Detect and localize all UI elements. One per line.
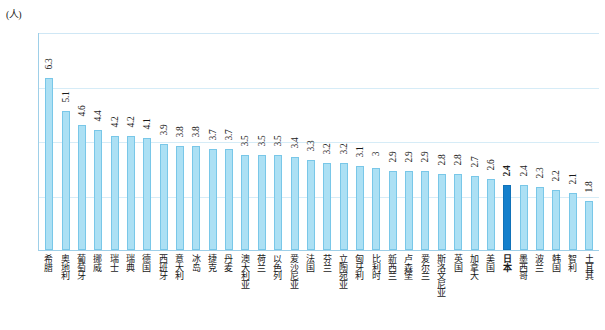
bar[interactable] — [94, 130, 102, 250]
bar-slot[interactable]: 3.5 — [254, 33, 270, 250]
bar-slot[interactable]: 2.2 — [548, 33, 564, 250]
category-label: 美国 — [486, 254, 495, 271]
bar-value-label: 2.8 — [453, 154, 463, 165]
bar[interactable] — [45, 78, 53, 250]
bar-slot[interactable]: 3.4 — [286, 33, 302, 250]
bar-slot[interactable]: 1.8 — [581, 33, 597, 250]
bar-slot[interactable]: 2.9 — [417, 33, 433, 250]
bar-slot[interactable]: 3.7 — [221, 33, 237, 250]
bar-slot[interactable]: 4.2 — [106, 33, 122, 250]
bar-slot[interactable]: 2.9 — [401, 33, 417, 250]
bar[interactable] — [291, 157, 299, 250]
bar-slot[interactable]: 2.6 — [483, 33, 499, 250]
bar-slot[interactable]: 2.3 — [532, 33, 548, 250]
category-label: 芬兰 — [322, 254, 331, 271]
bar-slot[interactable]: 3.8 — [172, 33, 188, 250]
bar-highlighted[interactable] — [503, 185, 511, 250]
bar-slot[interactable]: 2.7 — [466, 33, 482, 250]
bar[interactable] — [389, 171, 397, 250]
bar-value-label: 2.2 — [551, 171, 561, 182]
category-label: 德国 — [142, 254, 151, 271]
bar[interactable] — [421, 171, 429, 250]
bar-value-label: 2.7 — [470, 157, 480, 168]
category-label: 爱沙尼亚 — [289, 254, 298, 288]
bar[interactable] — [536, 187, 544, 250]
bar-slot[interactable]: 2.4 — [499, 33, 515, 250]
bar-slot[interactable]: 3.2 — [335, 33, 351, 250]
bar[interactable] — [78, 125, 86, 250]
category-label: 英国 — [453, 254, 462, 271]
bar[interactable] — [176, 146, 184, 250]
bar[interactable] — [209, 149, 217, 250]
bar-value-label: 3.5 — [273, 135, 283, 146]
bar-slot[interactable]: 3.8 — [188, 33, 204, 250]
bar[interactable] — [225, 149, 233, 250]
bar[interactable] — [487, 179, 495, 250]
category-slot: 波兰 — [531, 252, 547, 328]
bar[interactable] — [585, 201, 593, 250]
bar-slot[interactable]: 3.5 — [270, 33, 286, 250]
bar-slot[interactable]: 3 — [368, 33, 384, 250]
bar-slot[interactable]: 2.8 — [450, 33, 466, 250]
category-slot: 英国 — [449, 252, 465, 328]
bar-slot[interactable]: 5.1 — [57, 33, 73, 250]
bar[interactable] — [454, 174, 462, 250]
bar-value-label: 3.5 — [257, 135, 267, 146]
bar-slot[interactable]: 4.4 — [90, 33, 106, 250]
category-label: 波兰 — [535, 254, 544, 271]
bar-slot[interactable]: 2.4 — [515, 33, 531, 250]
bar[interactable] — [471, 176, 479, 250]
bar-value-label: 2.4 — [502, 165, 512, 176]
bar[interactable] — [438, 174, 446, 250]
bar[interactable] — [552, 190, 560, 250]
bar-value-label: 3 — [371, 152, 381, 156]
category-slot: 土耳其 — [580, 252, 596, 328]
category-label: 法国 — [306, 254, 315, 271]
bar[interactable] — [274, 155, 282, 250]
bar[interactable] — [111, 136, 119, 250]
bar-slot[interactable]: 2.8 — [434, 33, 450, 250]
bar[interactable] — [160, 144, 168, 250]
bar[interactable] — [143, 138, 151, 250]
bar-slot[interactable]: 3.3 — [303, 33, 319, 250]
bar[interactable] — [127, 136, 135, 250]
bar-slot[interactable]: 4.2 — [123, 33, 139, 250]
category-slot: 新西兰 — [384, 252, 400, 328]
category-label: 日本 — [502, 254, 511, 271]
bar[interactable] — [372, 168, 380, 250]
bar-value-label: 2.9 — [404, 151, 414, 162]
bar-value-label: 4.1 — [142, 119, 152, 130]
bar-slot[interactable]: 3.9 — [156, 33, 172, 250]
bar-slot[interactable]: 3.1 — [352, 33, 368, 250]
bar-value-label: 2.9 — [388, 151, 398, 162]
category-label: 挪威 — [93, 254, 102, 271]
bar[interactable] — [569, 193, 577, 250]
bar-value-label: 2.3 — [535, 168, 545, 179]
bar[interactable] — [323, 163, 331, 250]
bar[interactable] — [356, 166, 364, 250]
bar[interactable] — [241, 155, 249, 250]
bar-slot[interactable]: 2.1 — [565, 33, 581, 250]
bar[interactable] — [307, 160, 315, 250]
bar-slot[interactable]: 4.1 — [139, 33, 155, 250]
category-slot: 美国 — [482, 252, 498, 328]
bar-slot[interactable]: 6.3 — [41, 33, 57, 250]
bar[interactable] — [192, 146, 200, 250]
bar-value-label: 3.7 — [224, 130, 234, 141]
category-slot: 葡萄牙 — [73, 252, 89, 328]
bar-slot[interactable]: 3.7 — [205, 33, 221, 250]
category-slot: 卢森堡 — [400, 252, 416, 328]
bar[interactable] — [62, 111, 70, 250]
bar[interactable] — [340, 163, 348, 250]
category-label: 比利时 — [371, 254, 380, 280]
bar-slot[interactable]: 3.2 — [319, 33, 335, 250]
bar-value-label: 3.9 — [159, 124, 169, 135]
bar[interactable] — [520, 185, 528, 250]
bar-slot[interactable]: 2.9 — [385, 33, 401, 250]
category-slot: 冰岛 — [187, 252, 203, 328]
bar[interactable] — [258, 155, 266, 250]
bar-slot[interactable]: 3.5 — [237, 33, 253, 250]
bar-slot[interactable]: 4.6 — [74, 33, 90, 250]
bar-value-label: 1.8 — [584, 181, 594, 192]
bar[interactable] — [405, 171, 413, 250]
